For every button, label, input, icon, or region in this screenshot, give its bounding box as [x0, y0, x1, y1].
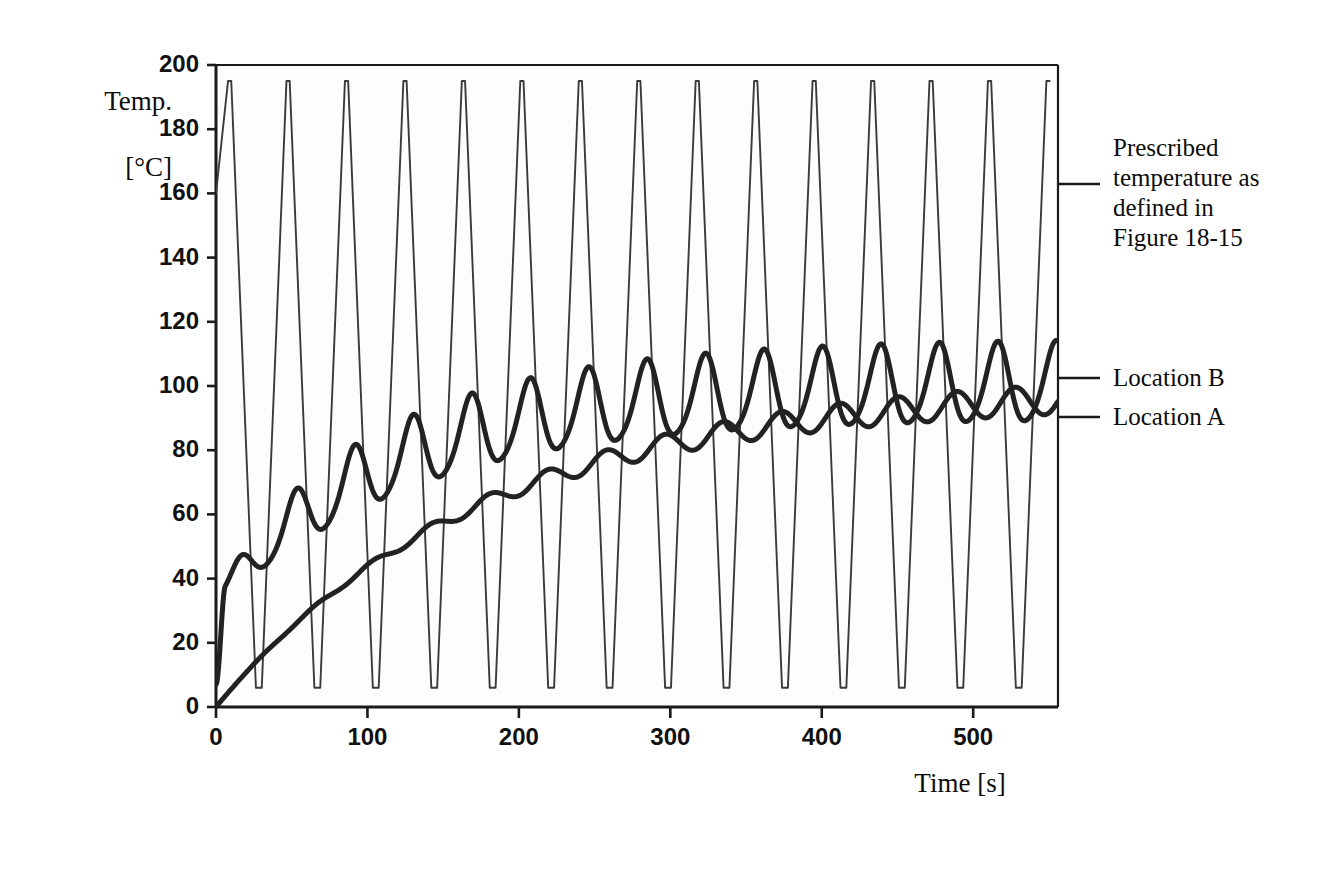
axes-group [207, 65, 1058, 718]
y-tick-label-100: 100 [99, 371, 199, 399]
figure-container: Temp. [°C] Time [s] 02040608010012014016… [0, 0, 1317, 874]
x-tick-label-500: 500 [923, 723, 1023, 751]
y-tick-label-60: 60 [99, 499, 199, 527]
annotation-prescribed-temperature-line-2: temperature as [1113, 163, 1259, 193]
leader-lines-group [1058, 184, 1100, 417]
y-tick-label-0: 0 [99, 692, 199, 720]
y-axis-title: Temp. [°C] [44, 52, 172, 250]
annotation-location-b: Location B [1113, 363, 1225, 393]
annotation-prescribed-temperature-line-1: Prescribed [1113, 133, 1259, 163]
annotation-location-a: Location A [1113, 402, 1225, 432]
x-tick-label-100: 100 [317, 723, 417, 751]
x-tick-label-400: 400 [772, 723, 872, 751]
y-tick-label-160: 160 [99, 178, 199, 206]
y-tick-label-140: 140 [99, 243, 199, 271]
y-tick-label-20: 20 [99, 628, 199, 656]
y-tick-label-200: 200 [99, 50, 199, 78]
y-tick-label-40: 40 [99, 564, 199, 592]
annotation-location-a-line-1: Location A [1113, 402, 1225, 432]
annotation-prescribed-temperature: Prescribedtemperature asdefined inFigure… [1113, 133, 1259, 253]
y-tick-label-80: 80 [99, 435, 199, 463]
y-axis-title-line1: Temp. [104, 86, 172, 116]
annotation-prescribed-temperature-line-4: Figure 18-15 [1113, 223, 1259, 253]
y-tick-label-180: 180 [99, 114, 199, 142]
x-tick-label-0: 0 [166, 723, 266, 751]
y-tick-label-120: 120 [99, 307, 199, 335]
x-tick-label-300: 300 [620, 723, 720, 751]
annotation-location-b-line-1: Location B [1113, 363, 1225, 393]
x-tick-label-200: 200 [469, 723, 569, 751]
annotation-prescribed-temperature-line-3: defined in [1113, 193, 1259, 223]
x-axis-title: Time [s] [860, 767, 1060, 800]
